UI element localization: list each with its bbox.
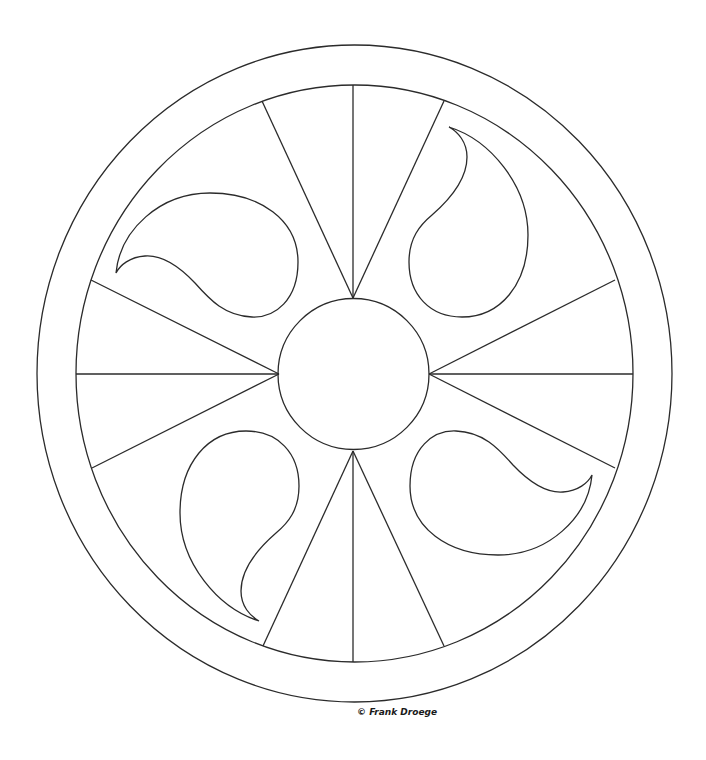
paisley-upper-right	[409, 127, 528, 317]
paisley-lower-left	[180, 431, 299, 621]
spoke-line	[353, 451, 444, 646]
paisley-upper-left	[116, 193, 298, 317]
spoke-line	[262, 101, 353, 298]
mandala-drawing	[0, 0, 706, 760]
spoke-line	[91, 280, 279, 374]
spoke-line	[429, 374, 615, 468]
copyright-credit: © Frank Droege	[357, 707, 437, 717]
spoke-line	[353, 101, 444, 298]
spokes	[76, 85, 633, 662]
spoke-line	[92, 374, 279, 468]
hub-circle	[278, 299, 429, 450]
paisley-lower-right	[410, 431, 592, 555]
spoke-line	[263, 451, 353, 646]
spoke-line	[429, 280, 615, 374]
